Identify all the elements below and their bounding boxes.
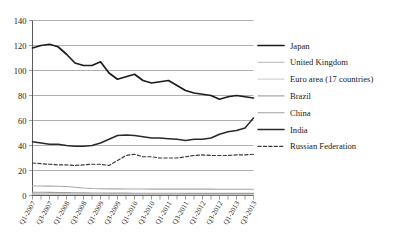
y-axis-tick-labels: 020406080100120140	[14, 16, 27, 201]
series-lines	[33, 44, 254, 195]
legend-label-china: China	[290, 108, 311, 118]
y-tick-label: 140	[14, 16, 27, 26]
y-tick-label: 120	[14, 41, 27, 51]
series-line-india	[33, 118, 254, 146]
y-axis-ticks	[29, 21, 33, 196]
series-line-japan	[33, 44, 254, 99]
y-tick-label: 40	[18, 141, 27, 151]
legend-label-japan: Japan	[290, 41, 310, 51]
series-line-russian-federation	[33, 154, 254, 165]
y-tick-label: 20	[18, 166, 27, 176]
series-line-brazil	[33, 186, 254, 189]
legend-label-india: India	[290, 125, 308, 135]
y-tick-label: 80	[18, 91, 27, 101]
legend-label-russian-federation: Russian Federation	[290, 141, 357, 151]
chart-figure: 020406080100120140 Q1-2007Q3-2007Q1-2008…	[0, 0, 402, 252]
legend-label-euro-area-17-countries: Euro area (17 countries)	[290, 74, 373, 84]
x-tick-label: Q3-2013	[239, 200, 259, 226]
x-axis-tick-labels: Q1-2007Q3-2007Q1-2008Q3-2008Q1-2009Q3-20…	[18, 200, 259, 226]
y-tick-label: 60	[18, 116, 27, 126]
chart-legend: JapanUnited KingdomEuro area (17 countri…	[258, 41, 373, 152]
y-tick-label: 0	[22, 191, 26, 201]
legend-label-brazil: Brazil	[290, 91, 312, 101]
gridlines	[33, 21, 254, 171]
x-axis-ticks	[33, 196, 254, 200]
legend-label-united-kingdom: United Kingdom	[290, 57, 348, 67]
line-chart: 020406080100120140 Q1-2007Q3-2007Q1-2008…	[0, 0, 402, 252]
y-tick-label: 100	[14, 66, 27, 76]
series-line-china	[33, 192, 254, 193]
